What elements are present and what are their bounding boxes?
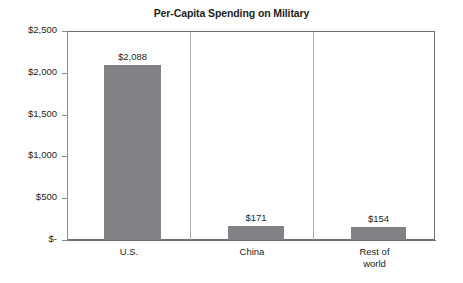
chart-title: Per-Capita Spending on Military bbox=[0, 7, 463, 19]
y-axis-tick-mark bbox=[62, 31, 67, 32]
y-axis-tick-mark bbox=[62, 240, 67, 241]
y-axis-tick-label: $2,000 bbox=[28, 66, 57, 77]
y-axis-line bbox=[67, 31, 68, 241]
y-axis-tick-label: $1,000 bbox=[28, 149, 57, 160]
bar-us[interactable] bbox=[104, 65, 161, 240]
category-separator bbox=[313, 32, 314, 240]
y-axis-tick-label: $1,500 bbox=[28, 108, 57, 119]
y-axis-tick-mark bbox=[62, 156, 67, 157]
y-axis-tick-mark bbox=[62, 73, 67, 74]
x-axis-category-label-china: China bbox=[191, 246, 313, 258]
y-axis-tick-label: $- bbox=[49, 233, 57, 244]
bar-china[interactable] bbox=[228, 226, 284, 240]
bar-value-label-china: $171 bbox=[228, 212, 284, 223]
x-axis-category-label-us: U.S. bbox=[68, 246, 190, 258]
y-axis-tick-mark bbox=[62, 115, 67, 116]
y-axis-tick-label: $500 bbox=[36, 191, 57, 202]
category-separator bbox=[190, 32, 191, 240]
y-axis-tick-label: $2,500 bbox=[28, 24, 57, 35]
bar-value-label-rest-of-world: $154 bbox=[351, 213, 406, 224]
bar-rest-of-world[interactable] bbox=[351, 227, 406, 240]
bar-value-label-us: $2,088 bbox=[104, 51, 161, 62]
bar-chart: Per-Capita Spending on Military $2,500 $… bbox=[0, 0, 463, 283]
y-axis-tick-mark bbox=[62, 198, 67, 199]
x-axis-line bbox=[67, 240, 436, 241]
x-axis-category-label-rest-of-world: Rest of world bbox=[314, 246, 435, 270]
